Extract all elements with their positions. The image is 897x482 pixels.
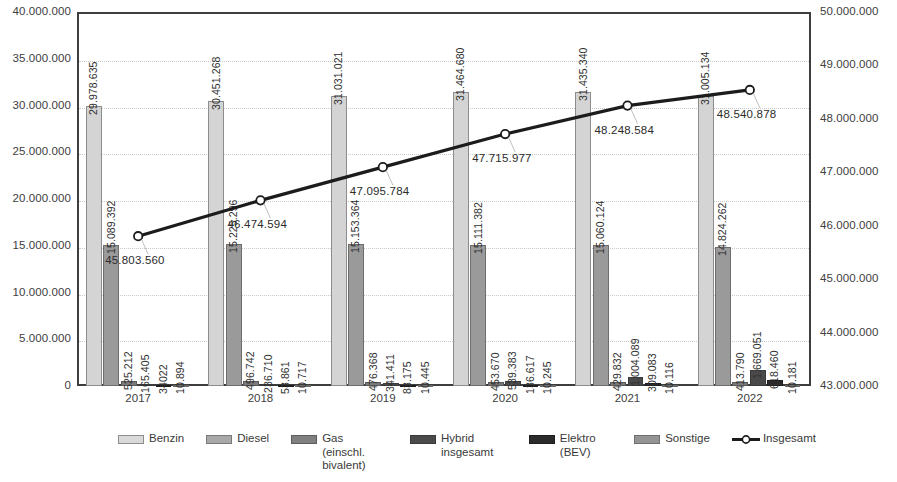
- insgesamt-marker-2018: [256, 196, 264, 204]
- legend-label-insgesamt: Insgesamt: [763, 432, 816, 446]
- leader-line: [753, 93, 760, 108]
- legend-item-diesel[interactable]: Diesel: [206, 432, 269, 446]
- insgesamt-label-2017: 45.803.560: [105, 254, 165, 266]
- legend-label-elektro: Elektro (BEV): [560, 432, 612, 459]
- legend-swatch-sonstige: [634, 435, 660, 444]
- line-series-insgesamt: [0, 0, 897, 482]
- leader-line: [264, 204, 271, 219]
- legend-label-sonstige: Sonstige: [665, 432, 710, 446]
- legend-item-hybrid[interactable]: Hybrid insgesamt: [410, 432, 507, 459]
- insgesamt-label-2020: 47.715.977: [472, 152, 532, 164]
- leader-line: [386, 171, 393, 186]
- legend-item-benzin[interactable]: Benzin: [118, 432, 184, 446]
- insgesamt-marker-2019: [379, 163, 387, 171]
- leader-line: [631, 109, 638, 124]
- legend-item-insgesamt[interactable]: Insgesamt: [732, 432, 816, 446]
- legend-swatch-benzin: [118, 435, 144, 444]
- insgesamt-marker-2021: [623, 101, 631, 109]
- insgesamt-marker-2022: [746, 86, 754, 94]
- insgesamt-label-2022: 48.540.878: [717, 108, 777, 120]
- legend-label-diesel: Diesel: [237, 432, 269, 446]
- legend-swatch-diesel: [206, 435, 232, 444]
- line-marker-icon: [732, 434, 758, 445]
- legend-swatch-elektro: [529, 435, 555, 444]
- legend-item-sonstige[interactable]: Sonstige: [634, 432, 710, 446]
- leader-line: [142, 240, 149, 255]
- chart-container: 05.000.00010.000.00015.000.00020.000.000…: [0, 0, 897, 482]
- insgesamt-label-2018: 46.474.594: [228, 218, 288, 230]
- legend-item-gas[interactable]: Gas (einschl. bivalent): [291, 432, 388, 473]
- leader-line: [509, 138, 516, 153]
- chart-legend: BenzinDieselGas (einschl. bivalent)Hybri…: [118, 432, 838, 473]
- insgesamt-line: [138, 90, 750, 236]
- insgesamt-marker-2017: [134, 232, 142, 240]
- legend-label-hybrid: Hybrid insgesamt: [441, 432, 507, 459]
- insgesamt-label-2019: 47.095.784: [350, 185, 410, 197]
- legend-item-elektro[interactable]: Elektro (BEV): [529, 432, 612, 459]
- legend-swatch-gas: [291, 435, 317, 444]
- legend-swatch-hybrid: [410, 435, 436, 444]
- legend-label-gas: Gas (einschl. bivalent): [322, 432, 388, 473]
- insgesamt-marker-2020: [501, 130, 509, 138]
- insgesamt-label-2021: 48.248.584: [595, 124, 655, 136]
- legend-label-benzin: Benzin: [149, 432, 184, 446]
